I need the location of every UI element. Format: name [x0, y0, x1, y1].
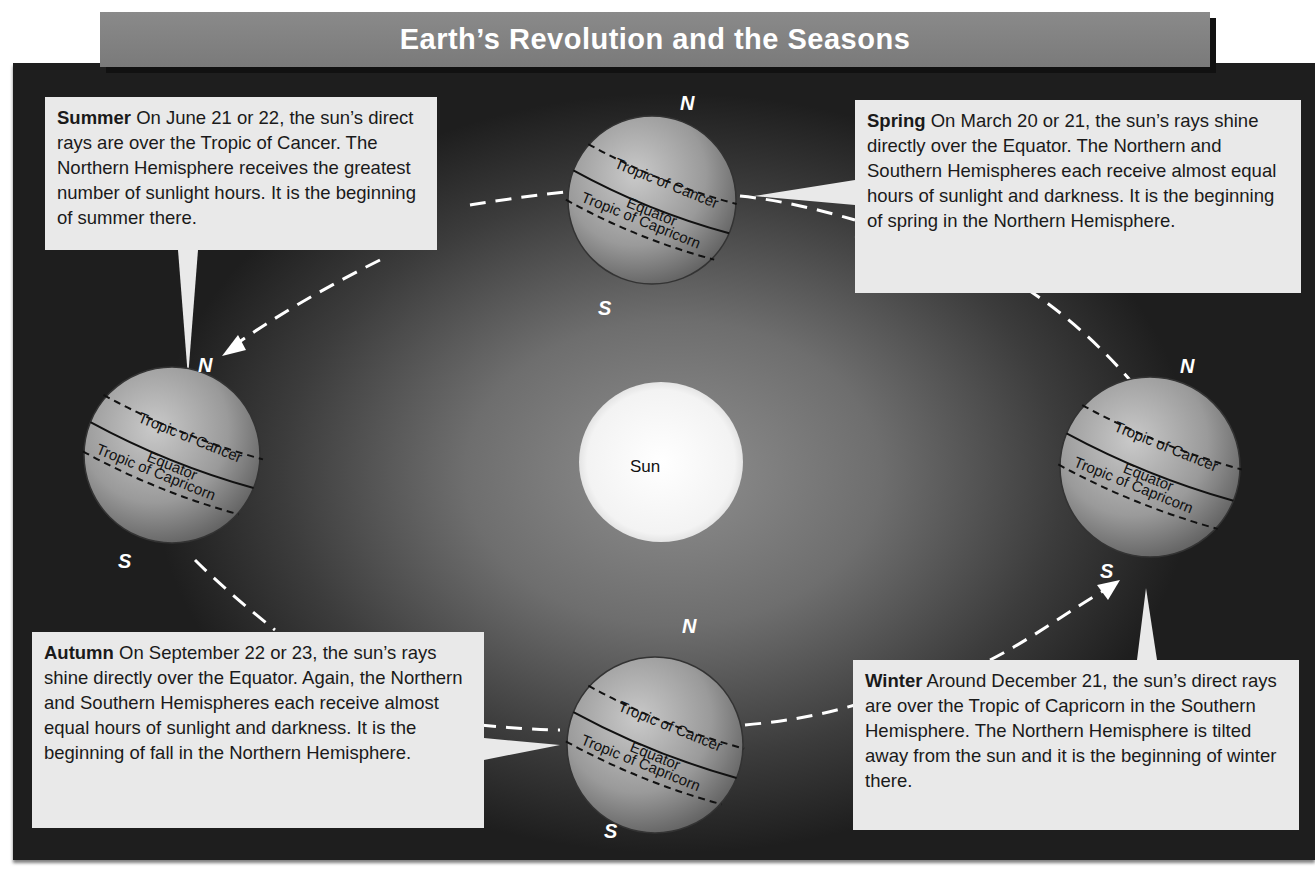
- season-description: Around December 21, the sun’s direct ray…: [865, 670, 1277, 791]
- orbit-arrowhead-icon: [1097, 580, 1120, 600]
- globe-autumn: Tropic of Cancer Equator Tropic of Capri…: [560, 657, 748, 833]
- sun-label: Sun: [630, 457, 660, 477]
- globe-winter: Tropic of Cancer Equator Tropic of Capri…: [1053, 377, 1246, 557]
- season-description: On March 20 or 21, the sun’s rays shine …: [867, 110, 1276, 231]
- autumn-pointer: [484, 738, 560, 760]
- south-label: S: [1100, 560, 1114, 582]
- diagram-title: Earth’s Revolution and the Seasons: [400, 23, 911, 56]
- north-label: N: [680, 92, 695, 114]
- season-name: Summer: [57, 107, 131, 128]
- sun-icon: [579, 382, 743, 542]
- title-banner: Earth’s Revolution and the Seasons: [100, 12, 1210, 67]
- winter-pointer: [1137, 588, 1157, 660]
- callout-summer: Summer On June 21 or 22, the sun’s direc…: [45, 97, 437, 250]
- globe-summer: Tropic of Cancer Equator Tropic of Capri…: [77, 367, 265, 543]
- callout-spring: Spring On March 20 or 21, the sun’s rays…: [855, 100, 1301, 293]
- south-label: S: [118, 550, 132, 572]
- season-name: Winter: [865, 670, 922, 691]
- north-label: N: [682, 615, 697, 637]
- summer-pointer: [178, 250, 198, 378]
- season-name: Spring: [867, 110, 926, 131]
- south-label: S: [598, 297, 612, 319]
- callout-autumn: Autumn On September 22 or 23, the sun’s …: [32, 632, 484, 828]
- south-label: S: [604, 820, 618, 842]
- callout-winter: Winter Around December 21, the sun’s dir…: [853, 660, 1299, 830]
- north-label: N: [1180, 355, 1195, 377]
- season-name: Autumn: [44, 642, 114, 663]
- globe-spring: Tropic of Cancer Equator Tropic of Capri…: [560, 116, 740, 284]
- north-label: N: [198, 354, 213, 376]
